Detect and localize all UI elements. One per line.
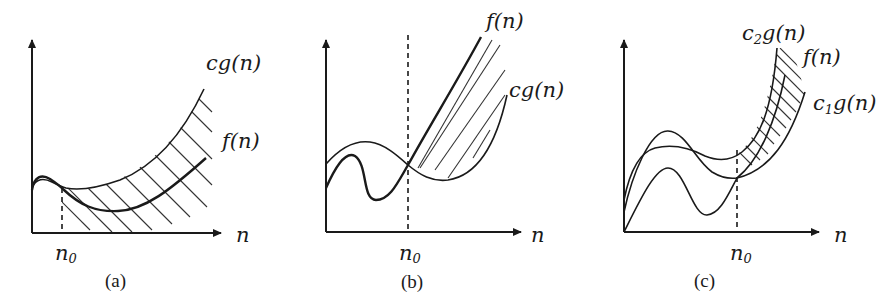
panel-c-theta: c2g(n) f(n) c1g(n) n n0 (c) — [624, 21, 876, 292]
hatch-region — [410, 25, 505, 178]
asymptotic-notation-figure: cg(n) f(n) n n0 (a) f(n) cg(n) n n0 (b) — [0, 0, 893, 308]
f-label: f(n) — [484, 9, 524, 33]
caption-c: (c) — [694, 270, 715, 292]
hatch-region — [735, 48, 808, 165]
caption-b: (b) — [401, 271, 423, 293]
x-axis-label: n — [236, 223, 250, 247]
f-curve — [326, 37, 481, 200]
cg-curve — [32, 89, 204, 189]
f-curve — [624, 75, 785, 212]
c1g-curve — [624, 92, 805, 232]
c2g-label: c2g(n) — [742, 21, 805, 47]
f-curve — [32, 158, 206, 211]
f-label: f(n) — [220, 129, 260, 153]
c2g-curve — [624, 48, 777, 200]
c1g-label: c1g(n) — [813, 91, 876, 117]
n0-label: n0 — [55, 241, 77, 266]
panel-b-big-omega: f(n) cg(n) n n0 (b) — [326, 9, 564, 293]
cg-label: cg(n) — [206, 51, 261, 75]
cg-label: cg(n) — [509, 78, 564, 102]
n0-label: n0 — [730, 241, 752, 266]
x-axis-label: n — [531, 223, 545, 247]
n0-label: n0 — [399, 241, 421, 266]
f-label: f(n) — [801, 45, 841, 69]
cg-curve — [326, 95, 507, 180]
x-axis-label: n — [834, 223, 848, 247]
panel-a-big-o: cg(n) f(n) n n0 (a) — [32, 40, 261, 292]
hatch-region — [40, 95, 212, 232]
caption-a: (a) — [105, 270, 126, 292]
